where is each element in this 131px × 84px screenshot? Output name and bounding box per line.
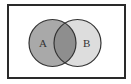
set-a-label: A <box>39 37 47 49</box>
venn-diagram: A B <box>0 0 131 84</box>
set-b-label: B <box>83 37 90 49</box>
